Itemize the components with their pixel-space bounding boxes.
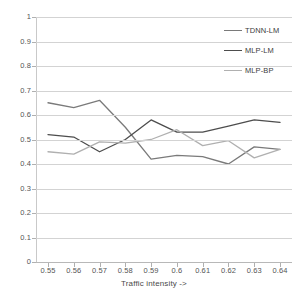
x-axis-tick-label: 0.57 xyxy=(86,266,114,275)
y-axis-tick-label: 0 xyxy=(1,258,31,266)
y-axis-tick-label: 1 xyxy=(1,13,31,21)
legend-color-swatch xyxy=(224,70,242,71)
x-axis-tick-label: 0.64 xyxy=(266,266,294,275)
legend-color-swatch xyxy=(224,30,242,31)
y-axis-tick-label: 0.6 xyxy=(1,111,31,119)
y-axis-tick-label: 0.1 xyxy=(1,234,31,242)
x-axis-title: Traffic intensity -> xyxy=(0,279,308,288)
y-axis-tick-label: 0.8 xyxy=(1,62,31,70)
gridline xyxy=(36,238,292,239)
y-axis-tick-label: 0.4 xyxy=(1,160,31,168)
legend-item-mlp-bp[interactable]: MLP-BP xyxy=(224,64,308,76)
series-line-tdnn-lm xyxy=(48,100,280,164)
x-axis-tick-label: 0.56 xyxy=(60,266,88,275)
gridline xyxy=(36,189,292,190)
y-axis-tick-mark xyxy=(32,140,36,141)
y-axis-tick-label: 0.9 xyxy=(1,38,31,46)
x-axis-tick-mark xyxy=(48,263,49,267)
gridline xyxy=(36,91,292,92)
x-axis-tick-mark xyxy=(280,263,281,267)
x-axis-tick-label: 0.63 xyxy=(240,266,268,275)
y-axis-labels: 00.10.20.30.40.50.60.70.80.91 xyxy=(0,0,31,300)
y-axis-tick-mark xyxy=(32,189,36,190)
gridline xyxy=(36,164,292,165)
y-axis-tick-mark xyxy=(32,42,36,43)
x-axis-tick-mark xyxy=(125,263,126,267)
line-chart: 00.10.20.30.40.50.60.70.80.91 0.550.560.… xyxy=(0,0,308,300)
series-line-mlp-lm xyxy=(48,120,280,152)
y-axis-tick-label: 0.5 xyxy=(1,136,31,144)
y-axis-tick-mark xyxy=(32,17,36,18)
x-axis-tick-label: 0.58 xyxy=(111,266,139,275)
x-axis-tick-label: 0.61 xyxy=(189,266,217,275)
y-axis-tick-label: 0.3 xyxy=(1,185,31,193)
y-axis-tick-mark xyxy=(32,66,36,67)
legend-label: MLP-BP xyxy=(245,66,274,75)
y-axis-tick-mark xyxy=(32,164,36,165)
gridline xyxy=(36,140,292,141)
x-axis-tick-mark xyxy=(74,263,75,267)
x-axis-tick-mark xyxy=(100,263,101,267)
legend-label: TDNN-LM xyxy=(245,26,279,35)
y-axis-tick-label: 0.7 xyxy=(1,87,31,95)
x-axis-tick-mark xyxy=(203,263,204,267)
legend-label: MLP-LM xyxy=(245,46,274,55)
x-axis-tick-mark xyxy=(151,263,152,267)
gridline xyxy=(36,17,292,18)
x-axis-tick-mark xyxy=(228,263,229,267)
x-axis-tick-label: 0.6 xyxy=(163,266,191,275)
legend-item-tdnn-lm[interactable]: TDNN-LM xyxy=(224,24,308,36)
legend-item-mlp-lm[interactable]: MLP-LM xyxy=(224,44,308,56)
y-axis-tick-label: 0.2 xyxy=(1,209,31,217)
gridline xyxy=(36,213,292,214)
legend-color-swatch xyxy=(224,50,242,51)
y-axis-tick-mark xyxy=(32,238,36,239)
series-line-mlp-bp xyxy=(48,130,280,158)
y-axis-tick-mark xyxy=(32,262,36,263)
x-axis-tick-label: 0.59 xyxy=(137,266,165,275)
x-axis-tick-mark xyxy=(177,263,178,267)
y-axis-tick-mark xyxy=(32,115,36,116)
x-axis-tick-label: 0.55 xyxy=(34,266,62,275)
y-axis-tick-mark xyxy=(32,91,36,92)
x-axis-tick-mark xyxy=(254,263,255,267)
gridline xyxy=(36,115,292,116)
chart-legend: TDNN-LMMLP-LMMLP-BP xyxy=(224,24,308,84)
x-axis-tick-label: 0.62 xyxy=(214,266,242,275)
y-axis-tick-mark xyxy=(32,213,36,214)
